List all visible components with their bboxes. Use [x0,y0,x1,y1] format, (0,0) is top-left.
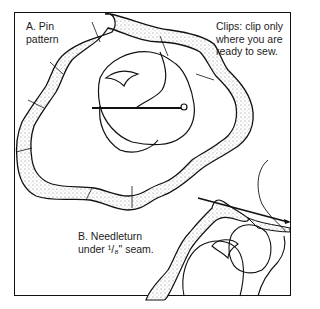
label-clips-note: Clips: clip onlywhere you areready to se… [216,20,283,58]
label-needleturn: B. Needleturnunder ¹/₈" seam. [78,230,154,255]
flower-motif-a [99,52,195,152]
label-a-line2: pattern [26,33,59,45]
label-b-line1: B. Needleturn [78,230,142,242]
label-a-line1: A. Pin [26,20,54,32]
label-b-line2: under ¹/₈" seam. [78,243,154,255]
label-pin-pattern: A. Pinpattern [26,20,59,45]
label-clips-line3: ready to sew. [216,45,278,57]
label-clips-line2: where you are [216,33,283,45]
label-clips-line1: Clips: clip only [216,20,283,32]
